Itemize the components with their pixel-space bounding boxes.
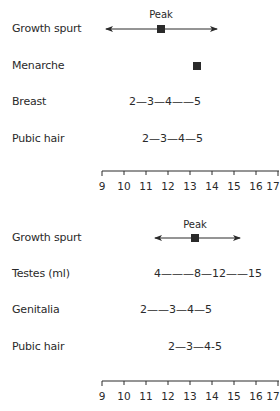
- breast-label: Breast: [12, 95, 46, 108]
- tick-14: 14: [205, 180, 218, 192]
- menarche-marker: [193, 62, 201, 70]
- tick-17: 17: [266, 180, 279, 192]
- male-age-axis: [102, 381, 279, 386]
- testes-label: Testes (ml): [12, 267, 70, 280]
- tick-16: 16: [249, 180, 262, 192]
- tick-9: 9: [99, 390, 106, 402]
- testes-stages: 4———8—12——15: [154, 267, 262, 280]
- male-peak-marker: [191, 234, 199, 242]
- tick-13: 13: [183, 180, 196, 192]
- tick-14: 14: [205, 390, 218, 402]
- genitalia-label: Genitalia: [12, 303, 59, 316]
- female-peak-marker: [157, 25, 165, 33]
- male-growth-spurt-arrow: [155, 234, 240, 242]
- male-pubic-hair-label: Pubic hair: [12, 340, 64, 353]
- tick-13: 13: [183, 390, 196, 402]
- tick-12: 12: [161, 180, 174, 192]
- tick-17: 17: [266, 390, 279, 402]
- tick-9: 9: [99, 180, 106, 192]
- tick-10: 10: [117, 180, 130, 192]
- female-peak-label: Peak: [149, 9, 173, 20]
- female-pubic-hair-label: Pubic hair: [12, 132, 64, 145]
- female-growth-spurt-arrow: [106, 25, 217, 33]
- genitalia-stages: 2——3—4—5: [140, 303, 212, 316]
- breast-stages: 2—3—4——5: [129, 95, 201, 108]
- menarche-label: Menarche: [12, 59, 64, 72]
- tick-15: 15: [227, 390, 240, 402]
- male-peak-label: Peak: [183, 219, 207, 230]
- tick-15: 15: [227, 180, 240, 192]
- male-pubic-hair-stages: 2—3—4-5: [168, 340, 222, 353]
- tick-11: 11: [139, 390, 152, 402]
- female-growth-spurt-label: Growth spurt: [12, 22, 81, 35]
- tick-11: 11: [139, 180, 152, 192]
- male-growth-spurt-label: Growth spurt: [12, 231, 81, 244]
- female-pubic-hair-stages: 2—3—4—5: [142, 132, 203, 145]
- female-age-axis: [102, 171, 279, 176]
- tick-10: 10: [117, 390, 130, 402]
- tick-16: 16: [249, 390, 262, 402]
- tick-12: 12: [161, 390, 174, 402]
